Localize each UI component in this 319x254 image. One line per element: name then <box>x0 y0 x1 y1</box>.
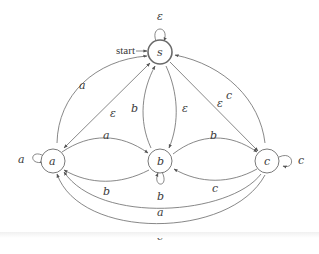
state-label: a <box>49 155 56 168</box>
state-label: b <box>157 155 164 168</box>
edge-label: c <box>226 89 232 102</box>
state-s: s <box>148 40 172 64</box>
page-edge-shadow <box>0 232 319 238</box>
start-arrow: start <box>116 44 147 56</box>
edge-label: b <box>210 129 217 142</box>
edge-a-loop: a <box>18 153 44 166</box>
edge-b-to-a: b <box>64 170 149 198</box>
edge-a-to-b: a <box>62 129 148 153</box>
state-a: a <box>41 149 65 173</box>
edge-label: ε <box>157 10 163 23</box>
edge-label: c <box>298 154 304 167</box>
start-label: start <box>116 44 135 56</box>
state-b: b <box>148 149 172 173</box>
edge-label: b <box>103 185 110 198</box>
edge-label: a <box>103 129 110 142</box>
state-label: c <box>264 155 270 168</box>
edge-b-loop: b <box>157 172 164 203</box>
state-label: s <box>157 46 163 59</box>
edge-s-loop: ε <box>155 10 165 41</box>
state-c: c <box>255 149 279 173</box>
edge-label: b <box>131 102 138 115</box>
edge-label: a <box>157 206 164 219</box>
edge-s-to-b: ε <box>166 66 188 148</box>
edge-label: b <box>157 190 164 203</box>
automaton-diagram: start ε a ε b ε ε c a a <box>0 0 319 254</box>
edge-label: ε <box>110 107 116 120</box>
edge-b-to-c: b <box>173 129 257 154</box>
edge-label: c <box>212 182 218 195</box>
edge-c-loop: c <box>279 154 304 167</box>
edge-label: ε <box>182 102 188 115</box>
edge-label: ε <box>217 97 223 110</box>
edge-c-to-b: c <box>174 169 257 195</box>
edge-label: a <box>79 79 86 92</box>
edge-a-to-s: a <box>57 56 147 143</box>
edge-label: a <box>18 153 25 166</box>
